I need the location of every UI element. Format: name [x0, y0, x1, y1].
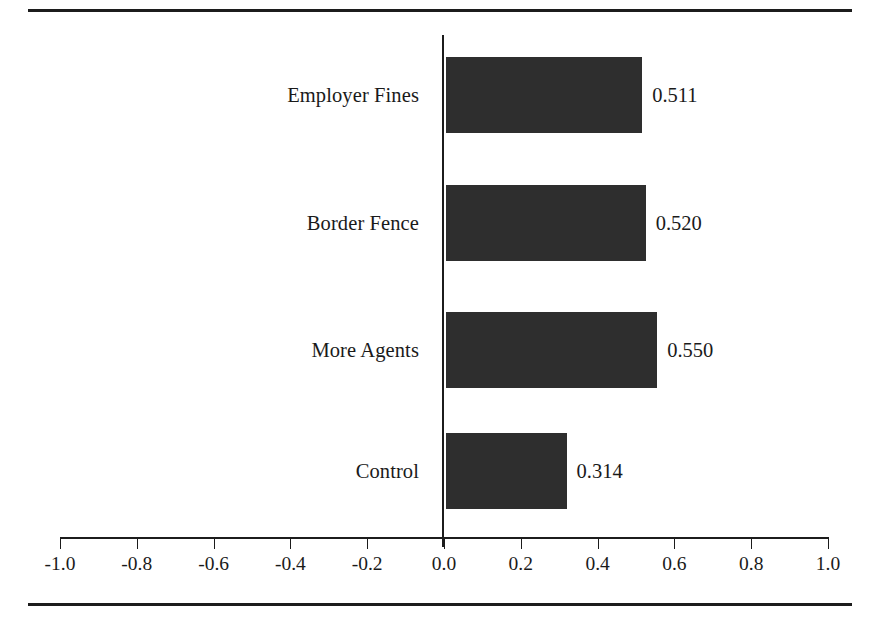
bar-row: Border Fence0.520 — [0, 185, 875, 261]
bar-row: More Agents0.550 — [0, 312, 875, 388]
x-tick-label: 1.0 — [816, 553, 840, 575]
bar-row: Control0.314 — [0, 433, 875, 509]
category-label: Control — [356, 433, 433, 509]
figure: Employer Fines0.511Border Fence0.520More… — [0, 0, 875, 619]
bar-value-label: 0.511 — [642, 57, 697, 133]
x-tick-label: 0.0 — [432, 553, 456, 575]
x-tick — [137, 537, 138, 549]
x-tick — [214, 537, 215, 549]
category-label: Border Fence — [307, 185, 433, 261]
x-tick-label: 0.8 — [739, 553, 763, 575]
x-tick-label: -0.2 — [352, 553, 383, 575]
x-tick — [598, 537, 599, 549]
x-tick — [521, 537, 522, 549]
bottom-rule — [28, 603, 852, 606]
x-tick-label: 0.2 — [509, 553, 533, 575]
bar — [446, 57, 642, 133]
x-tick-label: -0.6 — [198, 553, 229, 575]
x-tick — [367, 537, 368, 549]
bar-row: Employer Fines0.511 — [0, 57, 875, 133]
category-label: More Agents — [311, 312, 433, 388]
x-tick-label: 0.6 — [662, 553, 686, 575]
x-tick-label: -0.4 — [275, 553, 306, 575]
bar — [446, 312, 657, 388]
plot-area: Employer Fines0.511Border Fence0.520More… — [0, 0, 875, 619]
x-tick — [751, 537, 752, 549]
bar-value-label: 0.550 — [657, 312, 713, 388]
x-tick — [290, 537, 291, 549]
x-tick-label: -0.8 — [121, 553, 152, 575]
x-tick — [674, 537, 675, 549]
bar — [446, 185, 646, 261]
x-tick — [444, 537, 445, 549]
bar-value-label: 0.314 — [567, 433, 623, 509]
x-tick-label: -1.0 — [45, 553, 76, 575]
bar — [446, 433, 567, 509]
x-tick-label: 0.4 — [585, 553, 609, 575]
x-tick — [828, 537, 829, 549]
bar-value-label: 0.520 — [646, 185, 702, 261]
x-tick — [60, 537, 61, 549]
category-label: Employer Fines — [287, 57, 433, 133]
